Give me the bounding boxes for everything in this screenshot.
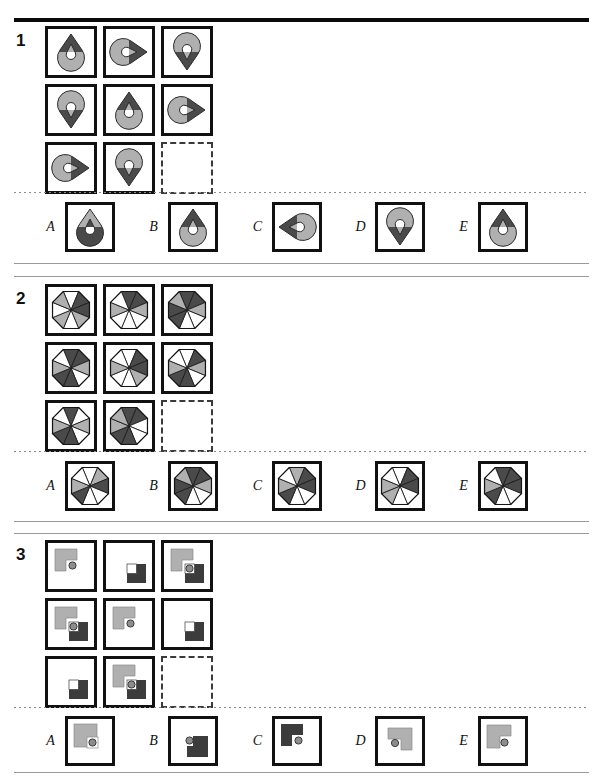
matrix-cell-r2c3: [161, 84, 213, 136]
option-box[interactable]: [65, 716, 115, 766]
matrix-cell-r2c1: [45, 84, 97, 136]
matrix-cell-r2c3: [161, 598, 213, 650]
option-a[interactable]: A: [45, 716, 115, 766]
option-letter: B: [148, 219, 159, 235]
option-letter: C: [252, 478, 263, 494]
matrix-cell-r1c2: [103, 284, 155, 336]
option-box[interactable]: [65, 461, 115, 511]
matrix-cell-r3c2: [103, 400, 155, 452]
option-letter: B: [148, 733, 159, 749]
option-box[interactable]: [375, 202, 425, 252]
puzzle-1-bottom-rule-b: [14, 276, 589, 277]
option-d[interactable]: D: [355, 202, 425, 252]
option-box[interactable]: [168, 461, 218, 511]
matrix-row: [45, 656, 219, 714]
matrix-row: [45, 84, 219, 142]
matrix-cell-r3c1: [45, 656, 97, 708]
test-page: 1: [0, 0, 603, 776]
matrix-cell-blank[interactable]: [161, 142, 213, 194]
option-b[interactable]: B: [148, 202, 218, 252]
puzzle-1-dotted-separator: [14, 192, 589, 193]
top-rule: [14, 18, 589, 22]
option-letter: C: [252, 219, 263, 235]
matrix-row: [45, 26, 219, 84]
option-box[interactable]: [478, 202, 528, 252]
matrix-row: [45, 342, 219, 400]
option-letter: B: [148, 478, 159, 494]
option-c[interactable]: C: [252, 461, 322, 511]
option-letter: D: [355, 478, 366, 494]
matrix-cell-blank[interactable]: [161, 656, 213, 708]
matrix-row: [45, 400, 219, 458]
matrix-cell-r3c2: [103, 656, 155, 708]
puzzle-3-matrix: [45, 540, 219, 714]
matrix-cell-blank[interactable]: [161, 400, 213, 452]
option-letter: A: [45, 478, 56, 494]
option-c[interactable]: C: [252, 202, 322, 252]
matrix-cell-r2c3: [161, 342, 213, 394]
option-e[interactable]: E: [458, 716, 528, 766]
option-box[interactable]: [272, 716, 322, 766]
matrix-row: [45, 598, 219, 656]
option-box[interactable]: [478, 461, 528, 511]
matrix-cell-r2c1: [45, 342, 97, 394]
matrix-cell-r1c3: [161, 26, 213, 78]
option-box[interactable]: [478, 716, 528, 766]
option-letter: E: [458, 733, 469, 749]
puzzle-1-bottom-rule-a: [14, 263, 589, 264]
option-letter: C: [252, 733, 263, 749]
option-box[interactable]: [65, 202, 115, 252]
option-b[interactable]: B: [148, 461, 218, 511]
puzzle-3-dotted-separator: [14, 707, 589, 708]
matrix-cell-r1c3: [161, 540, 213, 592]
option-d[interactable]: D: [355, 716, 425, 766]
puzzle-2-matrix: [45, 284, 219, 458]
matrix-cell-r1c3: [161, 284, 213, 336]
matrix-cell-r1c1: [45, 540, 97, 592]
option-a[interactable]: A: [45, 202, 115, 252]
option-letter: E: [458, 478, 469, 494]
matrix-row: [45, 540, 219, 598]
matrix-cell-r1c2: [103, 540, 155, 592]
matrix-cell-r2c2: [103, 342, 155, 394]
matrix-cell-r1c2: [103, 26, 155, 78]
matrix-cell-r1c1: [45, 284, 97, 336]
puzzle-1-number: 1: [16, 32, 25, 49]
option-box[interactable]: [375, 461, 425, 511]
option-e[interactable]: E: [458, 202, 528, 252]
option-letter: D: [355, 733, 366, 749]
option-a[interactable]: A: [45, 461, 115, 511]
puzzle-3-bottom-rule: [14, 772, 589, 773]
puzzle-2-bottom-rule-a: [14, 521, 589, 522]
option-letter: A: [45, 733, 56, 749]
option-box[interactable]: [272, 202, 322, 252]
option-box[interactable]: [168, 716, 218, 766]
matrix-cell-r2c2: [103, 598, 155, 650]
puzzle-3-number: 3: [16, 546, 25, 563]
option-e[interactable]: E: [458, 461, 528, 511]
matrix-row: [45, 284, 219, 342]
option-box[interactable]: [375, 716, 425, 766]
option-c[interactable]: C: [252, 716, 322, 766]
option-letter: E: [458, 219, 469, 235]
option-letter: A: [45, 219, 56, 235]
matrix-cell-r2c1: [45, 598, 97, 650]
option-box[interactable]: [272, 461, 322, 511]
option-d[interactable]: D: [355, 461, 425, 511]
matrix-cell-r2c2: [103, 84, 155, 136]
puzzle-2-dotted-separator: [14, 451, 589, 452]
option-letter: D: [355, 219, 366, 235]
matrix-cell-r3c2: [103, 142, 155, 194]
puzzle-2-number: 2: [16, 290, 25, 307]
matrix-cell-r3c1: [45, 400, 97, 452]
puzzle-1-matrix: [45, 26, 219, 200]
matrix-cell-r3c1: [45, 142, 97, 194]
puzzle-2-bottom-rule-b: [14, 533, 589, 534]
option-b[interactable]: B: [148, 716, 218, 766]
matrix-cell-r1c1: [45, 26, 97, 78]
option-box[interactable]: [168, 202, 218, 252]
